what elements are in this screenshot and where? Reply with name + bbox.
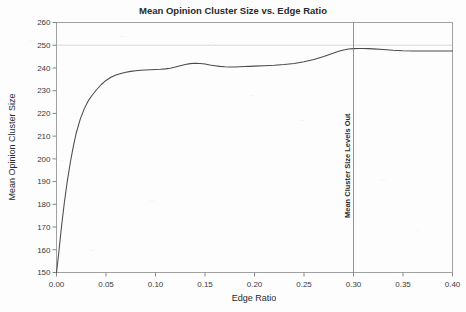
y-tick-label: 190	[37, 177, 51, 186]
y-axis-title: Mean Opinion Cluster Size	[7, 93, 17, 200]
y-tick-label: 170	[37, 223, 51, 232]
vline-annotation-label: Mean Cluster Size Levels Out	[343, 113, 352, 218]
x-tick-label: 0.15	[197, 280, 213, 289]
y-tick-label: 150	[37, 268, 51, 277]
x-tick-label: 0.20	[247, 280, 263, 289]
x-tick-label: 0.30	[346, 280, 362, 289]
y-tick-label: 180	[37, 200, 51, 209]
y-tick-label: 160	[37, 246, 51, 255]
y-tick-label: 200	[37, 155, 51, 164]
x-tick-label: 0.00	[49, 280, 65, 289]
x-tick-label: 0.25	[296, 280, 312, 289]
x-tick-label: 0.05	[98, 280, 114, 289]
x-tick-label: 0.35	[395, 280, 411, 289]
x-tick-label: 0.40	[445, 280, 461, 289]
x-tick-label: 0.10	[148, 280, 164, 289]
y-tick-label: 230	[37, 86, 51, 95]
y-tick-label: 220	[37, 109, 51, 118]
y-tick-label: 240	[37, 64, 51, 73]
y-tick-label: 250	[37, 41, 51, 50]
chart-title: Mean Opinion Cluster Size vs. Edge Ratio	[139, 5, 327, 16]
chart-figure: Mean Opinion Cluster Size vs. Edge Ratio…	[0, 0, 466, 312]
figure-background	[0, 0, 466, 312]
x-axis-title: Edge Ratio	[232, 293, 277, 303]
y-tick-label: 260	[37, 18, 51, 27]
y-tick-label: 210	[37, 132, 51, 141]
